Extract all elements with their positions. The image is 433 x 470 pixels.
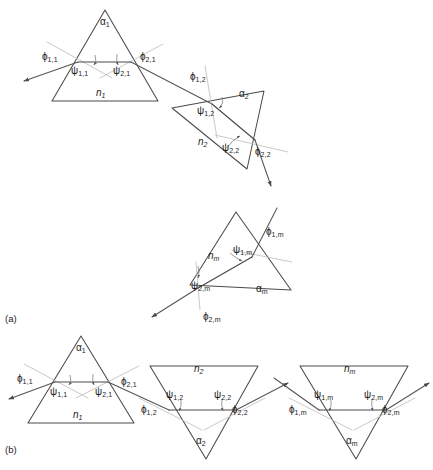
exit-ray-bm xyxy=(386,383,429,410)
incident-ray-a1 xyxy=(24,62,78,81)
panel-b-group xyxy=(9,336,429,459)
normal-line-b2-exit xyxy=(204,398,265,430)
angle-arrow-bm-psi1 xyxy=(329,400,331,411)
angle-arrow-b2-psi2 xyxy=(222,399,223,411)
normal-line-bm-exit xyxy=(354,398,415,430)
incident-ray-bm xyxy=(274,378,319,410)
exit-ray-a1 xyxy=(131,62,212,104)
incident-ray-am xyxy=(252,208,277,257)
normal-line-bm-entry xyxy=(289,398,352,430)
normal-line-a1-entry xyxy=(47,42,112,78)
panel-a-prism-m xyxy=(152,208,292,317)
exit-ray-a2 xyxy=(255,140,271,186)
panel-a-prism-1 xyxy=(24,10,212,104)
angle-arrow-b1-psi2 xyxy=(93,374,94,385)
normal-line-a1-exit xyxy=(100,44,163,78)
prism-outline-b2 xyxy=(150,366,258,459)
panel-b-prism-2 xyxy=(139,366,288,459)
angle-arrow-b1-psi1 xyxy=(69,375,71,385)
angle-arrow-am-psi1 xyxy=(230,253,242,261)
panel-a-group xyxy=(24,10,292,317)
exit-ray-b2 xyxy=(236,383,288,410)
normal-line-b1-entry xyxy=(24,364,88,398)
angle-arrow-bm-psi2 xyxy=(372,399,373,411)
internal-ray-a2 xyxy=(212,104,255,140)
internal-ray-am xyxy=(198,257,252,288)
angle-arrow-b2-psi1 xyxy=(179,400,181,411)
panel-b-prism-1 xyxy=(9,336,169,423)
angle-arrow-a1-psi1 xyxy=(94,55,96,65)
figure-root: α1n1ϕ1,1ϕ2,1ψ1,1ψ2,1α2n2ϕ1,2ϕ2,2ψ1,2ψ2,2… xyxy=(0,0,433,470)
prism-outline-am xyxy=(190,212,291,290)
panel-a-prism-2 xyxy=(172,66,288,186)
angle-arrow-a1-psi2 xyxy=(117,54,118,65)
prism-ray-diagram xyxy=(0,0,433,470)
normal-line-b2-entry xyxy=(139,398,202,430)
panel-b-prism-m xyxy=(274,366,429,459)
prism-outline-bm xyxy=(300,366,408,459)
prism-outline-a2 xyxy=(172,91,264,169)
exit-ray-am xyxy=(152,288,198,317)
prism-outline-b1 xyxy=(28,336,134,423)
